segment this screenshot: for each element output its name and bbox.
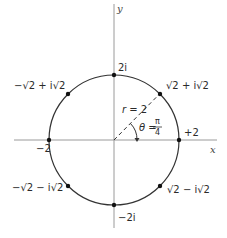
label-minus-2: −2 xyxy=(36,143,51,154)
point-q3 xyxy=(66,184,70,188)
point-q4 xyxy=(158,184,162,188)
label-q3: −√2 − i√2 xyxy=(12,182,63,193)
radius-line xyxy=(114,94,160,140)
label-q4: √2 − i√2 xyxy=(167,184,210,195)
label-q1: √2 + i√2 xyxy=(166,80,209,91)
angle-arc xyxy=(131,124,138,141)
point-q2 xyxy=(66,92,70,96)
angle-denominator: 4 xyxy=(155,128,160,137)
point-minus-2 xyxy=(47,138,51,142)
complex-plane-diagram: x y r = 2 θ = π 4 +2 √2 + i√2 2i −√2 + i… xyxy=(0,0,227,238)
label-2i: 2i xyxy=(118,62,127,73)
y-axis-label: y xyxy=(116,3,123,14)
label-q2: −√2 + i√2 xyxy=(14,80,65,91)
label-minus-2i: −2i xyxy=(118,212,136,223)
point-2i xyxy=(112,73,116,77)
radius-label: r = 2 xyxy=(122,104,147,115)
point-minus-2i xyxy=(112,203,116,207)
point-plus-2 xyxy=(177,138,181,142)
x-axis-label: x xyxy=(210,144,216,155)
point-q1 xyxy=(158,92,162,96)
label-plus-2: +2 xyxy=(184,127,199,138)
angle-numerator: π xyxy=(155,117,160,126)
